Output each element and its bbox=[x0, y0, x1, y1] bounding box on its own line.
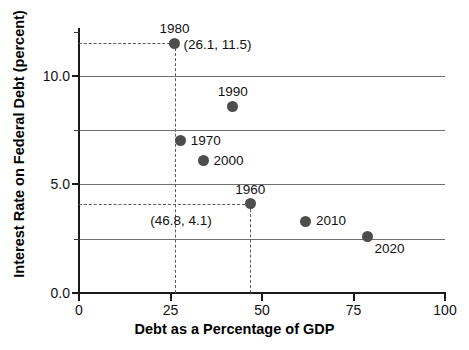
y-tick bbox=[72, 183, 80, 185]
y-tick bbox=[72, 75, 80, 77]
x-tick bbox=[353, 293, 355, 301]
y-tick-label: 10.0 bbox=[43, 68, 70, 84]
data-point-label: 2020 bbox=[374, 241, 404, 256]
x-axis-title: Debt as a Percentage of GDP bbox=[0, 321, 469, 337]
guide-line-vertical bbox=[250, 204, 251, 293]
x-tick-label: 100 bbox=[433, 302, 456, 318]
x-tick bbox=[444, 293, 446, 301]
x-tick-label: 25 bbox=[163, 302, 179, 318]
data-point bbox=[227, 101, 238, 112]
x-tick-label: 50 bbox=[254, 302, 270, 318]
gridline bbox=[79, 130, 445, 131]
data-point bbox=[169, 38, 180, 49]
data-point-label: 1970 bbox=[191, 133, 221, 148]
data-point-label: 2000 bbox=[213, 153, 243, 168]
data-point bbox=[362, 231, 373, 242]
x-tick bbox=[78, 293, 80, 301]
y-tick-label: 5.0 bbox=[51, 176, 70, 192]
data-point bbox=[245, 198, 256, 209]
y-tick-minor bbox=[74, 32, 80, 33]
data-point bbox=[300, 216, 311, 227]
data-point bbox=[198, 155, 209, 166]
guide-line-vertical bbox=[175, 43, 176, 293]
y-tick-label: 0.0 bbox=[51, 285, 70, 301]
data-point-label: 1980 bbox=[159, 21, 189, 36]
data-point-label: 1960 bbox=[235, 182, 265, 197]
guide-line-horizontal bbox=[79, 204, 250, 205]
y-axis-title: Interest Rate on Federal Debt (percent) bbox=[11, 0, 27, 294]
x-tick bbox=[170, 293, 172, 301]
y-tick-minor bbox=[74, 239, 80, 240]
x-tick bbox=[261, 293, 263, 301]
plot-area: 0.05.010.0 0255075100 1980(26.1, 11.5)19… bbox=[79, 28, 445, 293]
data-point-coordinates: (26.1, 11.5) bbox=[184, 37, 252, 52]
x-tick-label: 0 bbox=[75, 302, 83, 318]
y-axis-line bbox=[78, 28, 80, 294]
data-point-coordinates: (46.8, 4.1) bbox=[150, 213, 212, 228]
scatter-chart: 0.05.010.0 0255075100 1980(26.1, 11.5)19… bbox=[0, 0, 469, 350]
data-point-label: 2010 bbox=[316, 213, 346, 228]
gridline bbox=[79, 76, 445, 77]
data-point bbox=[175, 135, 186, 146]
y-tick-minor bbox=[74, 130, 80, 131]
data-point-label: 1990 bbox=[218, 84, 248, 99]
guide-line-horizontal bbox=[79, 43, 175, 44]
x-tick-label: 75 bbox=[346, 302, 362, 318]
